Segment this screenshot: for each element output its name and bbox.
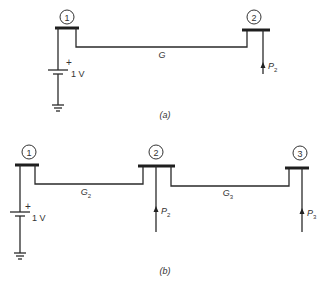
p3-label: P3	[307, 208, 317, 220]
diagram-b: 1 + 1 V G2 2 P2 G3	[10, 145, 317, 276]
bus-3-b: 3 P3	[285, 146, 317, 232]
bus-1-b: 1	[15, 145, 39, 165]
line-g3	[171, 166, 289, 186]
circuit-diagram: 1 + 1 V G 2 P2 (a)	[0, 0, 327, 282]
line-g2	[35, 165, 143, 184]
bus-3-label: 3	[297, 149, 302, 159]
voltage-label: 1 V	[71, 69, 85, 79]
p2-label: P2	[268, 61, 278, 73]
p2-label: P2	[161, 206, 171, 218]
caption-b: (b)	[160, 266, 171, 276]
plus-sign: +	[66, 57, 72, 68]
bus-2-label: 2	[251, 13, 256, 23]
line-g-label: G	[158, 50, 165, 60]
bus-2-b: 2 P2	[138, 145, 175, 232]
arrow-up-icon	[261, 62, 266, 68]
bus-1-a: 1	[55, 10, 79, 28]
diagram-a: 1 + 1 V G 2 P2 (a)	[48, 10, 278, 120]
line-g3-label: G3	[223, 188, 234, 200]
bus-1-label: 1	[64, 13, 69, 23]
caption-a: (a)	[160, 110, 171, 120]
bus-1-label: 1	[26, 148, 31, 158]
line-g2-label: G2	[81, 187, 92, 199]
bus-2-label: 2	[153, 148, 158, 158]
arrow-up-icon	[154, 206, 159, 212]
voltage-label: 1 V	[32, 213, 46, 223]
arrow-up-icon	[300, 208, 305, 214]
voltage-source-a: + 1 V	[48, 28, 85, 111]
voltage-source-b: + 1 V	[10, 165, 46, 259]
line-g	[76, 28, 247, 47]
plus-sign: +	[25, 201, 31, 212]
